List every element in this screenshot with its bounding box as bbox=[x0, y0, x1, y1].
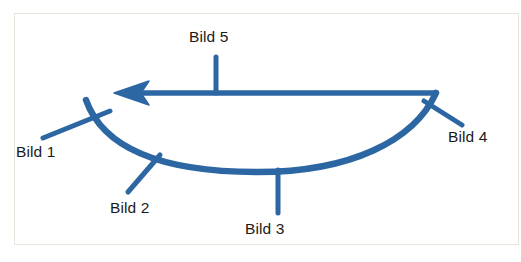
label-bild-4: Bild 4 bbox=[448, 128, 487, 146]
label-bild-2: Bild 2 bbox=[110, 199, 149, 217]
label-bild-3: Bild 3 bbox=[245, 220, 284, 238]
label-bild-1: Bild 1 bbox=[16, 143, 55, 161]
arc-bowl-path bbox=[86, 93, 436, 172]
leader-line-bild-2 bbox=[128, 155, 160, 192]
leader-line-bild-4 bbox=[424, 101, 462, 125]
label-bild-5: Bild 5 bbox=[189, 28, 228, 46]
figure-root: Bild 1 Bild 2 Bild 3 Bild 4 Bild 5 bbox=[0, 0, 521, 262]
